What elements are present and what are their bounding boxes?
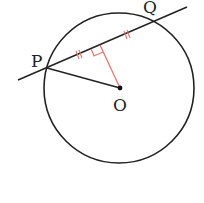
right-angle-marker xyxy=(91,49,103,56)
perpendicular-om xyxy=(100,45,120,88)
label-o: O xyxy=(113,95,127,115)
label-p: P xyxy=(31,51,42,71)
center-point-o xyxy=(118,86,123,91)
secant-line-pq xyxy=(18,7,187,80)
circle-chord-diagram: P Q O xyxy=(0,0,204,203)
segment-po xyxy=(47,68,120,88)
equal-ticks-pm xyxy=(76,50,82,59)
label-q: Q xyxy=(143,0,157,17)
